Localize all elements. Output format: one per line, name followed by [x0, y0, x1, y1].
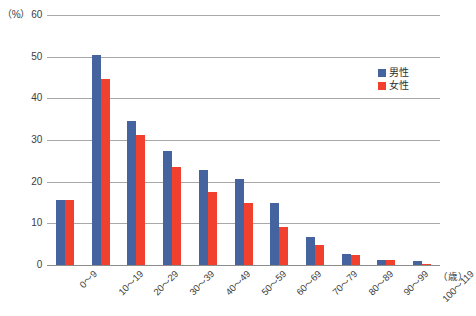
bar-male — [92, 55, 101, 265]
bar-female — [101, 79, 110, 265]
x-tick-label: 70〜79 — [331, 269, 359, 297]
y-tick-label: 60 — [2, 10, 42, 20]
bar-group — [56, 15, 74, 265]
bar-male — [127, 121, 136, 265]
bar-group — [342, 15, 360, 265]
y-tick-label: 10 — [2, 218, 42, 228]
bar-female — [279, 227, 288, 265]
bar-group — [127, 15, 145, 265]
bar-female — [136, 135, 145, 265]
bar-female — [422, 264, 431, 265]
bar-male — [342, 254, 351, 265]
legend-item-female: 女性 — [378, 79, 409, 92]
legend-item-male: 男性 — [378, 66, 409, 79]
y-tick-label: 40 — [2, 93, 42, 103]
y-tick-label: 0 — [2, 260, 42, 270]
bar-male — [377, 260, 386, 265]
legend-swatch-male-icon — [378, 69, 386, 77]
bar-female — [172, 167, 181, 265]
chart-legend: 男性 女性 — [378, 66, 409, 92]
bar-group — [306, 15, 324, 265]
bar-group — [92, 15, 110, 265]
bar-male — [235, 179, 244, 265]
bar-group — [199, 15, 217, 265]
legend-label-female: 女性 — [389, 79, 409, 92]
bar-female — [65, 200, 74, 265]
bar-male — [306, 237, 315, 265]
legend-swatch-female-icon — [378, 82, 386, 90]
x-tick-label: 20〜29 — [152, 269, 180, 297]
x-tick-label: 90〜99 — [402, 269, 430, 297]
bar-female — [315, 245, 324, 265]
bar-male — [270, 203, 279, 266]
bar-group — [235, 15, 253, 265]
x-tick-label: 40〜49 — [224, 269, 252, 297]
bar-group — [413, 15, 431, 265]
bar-female — [244, 203, 253, 265]
bar-female — [386, 260, 395, 265]
y-tick-label: 50 — [2, 52, 42, 62]
plot-area — [47, 15, 440, 265]
x-tick-label: 10〜19 — [116, 269, 144, 297]
y-tick-label: 20 — [2, 177, 42, 187]
x-tick-label: 30〜39 — [188, 269, 216, 297]
bar-group — [163, 15, 181, 265]
bar-female — [208, 192, 217, 265]
bar-male — [413, 261, 422, 265]
bar-female — [351, 255, 360, 265]
bar-male — [163, 151, 172, 265]
x-tick-label: 0〜9 — [78, 269, 99, 290]
gridline-0 — [47, 265, 440, 266]
legend-label-male: 男性 — [389, 66, 409, 79]
bar-group — [377, 15, 395, 265]
bar-group — [270, 15, 288, 265]
bar-male — [56, 200, 65, 265]
bar-male — [199, 170, 208, 265]
y-tick-label: 30 — [2, 135, 42, 145]
x-tick-label: 80〜89 — [366, 269, 394, 297]
x-tick-label: 60〜69 — [295, 269, 323, 297]
x-tick-label: 50〜59 — [259, 269, 287, 297]
